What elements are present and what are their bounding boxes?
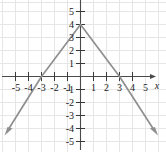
ytick-label-neg1: -1 — [66, 84, 74, 95]
xtick-label-2: 2 — [104, 82, 109, 93]
ytick-label-neg3: -3 — [66, 110, 74, 121]
xtick-label-neg2: -2 — [50, 82, 58, 93]
ytick-label-neg2: -2 — [66, 97, 74, 108]
xtick-label-1: 1 — [91, 82, 96, 93]
chart-svg: -5 -4 -3 -2 -1 1 2 3 4 5 5 4 3 2 1 -1 -2… — [0, 0, 166, 152]
ytick-label-1: 1 — [69, 58, 74, 69]
ytick-label-2: 2 — [69, 45, 74, 56]
xtick-label-3: 3 — [117, 82, 122, 93]
ytick-label-neg4: -4 — [66, 123, 74, 134]
xtick-label-neg3: -3 — [37, 82, 45, 93]
x-axis-arrow-icon — [150, 74, 156, 79]
ytick-label-4: 4 — [69, 19, 74, 30]
coordinate-plane-chart: -5 -4 -3 -2 -1 1 2 3 4 5 5 4 3 2 1 -1 -2… — [0, 0, 166, 152]
ytick-label-3: 3 — [69, 32, 74, 43]
xtick-label-neg4: -4 — [24, 82, 32, 93]
absolute-value-curve — [5, 25, 159, 136]
xtick-label-neg5: -5 — [12, 82, 20, 93]
ytick-label-neg5: -5 — [66, 136, 74, 147]
x-axis-label: x — [154, 80, 160, 91]
ytick-label-5: 5 — [69, 6, 74, 17]
xtick-label-4: 4 — [130, 82, 135, 93]
xtick-label-5: 5 — [143, 82, 148, 93]
